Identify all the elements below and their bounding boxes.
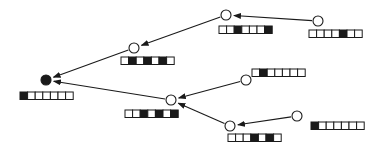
bit-cell bbox=[309, 30, 317, 38]
bit-cell bbox=[282, 69, 290, 77]
bit-cell bbox=[151, 57, 159, 65]
node-d bbox=[166, 95, 176, 105]
bit-cell bbox=[167, 57, 175, 65]
node-g bbox=[292, 111, 302, 121]
edge-g-to-f bbox=[238, 117, 291, 125]
bitstring-d bbox=[125, 110, 178, 118]
bit-cell bbox=[43, 92, 51, 100]
bit-cell bbox=[144, 57, 152, 65]
node-a bbox=[129, 43, 139, 53]
bitstring-e bbox=[252, 69, 305, 77]
bit-cell bbox=[274, 134, 282, 142]
bit-cell bbox=[260, 69, 268, 77]
bit-cell bbox=[50, 92, 58, 100]
bit-cell bbox=[136, 57, 144, 65]
bit-cell bbox=[357, 122, 365, 130]
node-e bbox=[241, 75, 251, 85]
bit-cell bbox=[298, 69, 306, 77]
bit-cell bbox=[121, 57, 129, 65]
bit-cell bbox=[148, 110, 156, 118]
node-b bbox=[221, 10, 231, 20]
bitstring-root bbox=[20, 92, 73, 100]
bit-cell bbox=[349, 122, 357, 130]
bit-cell bbox=[341, 122, 349, 130]
bit-cell bbox=[155, 110, 163, 118]
bit-cell bbox=[355, 30, 363, 38]
bit-cell bbox=[219, 26, 227, 34]
bit-cell bbox=[326, 122, 334, 130]
bit-cell bbox=[334, 122, 342, 130]
bit-cell bbox=[324, 30, 332, 38]
bit-cell bbox=[311, 122, 319, 130]
root-node bbox=[41, 75, 51, 85]
bit-cell bbox=[243, 134, 251, 142]
bit-cell bbox=[317, 30, 325, 38]
bit-cell bbox=[251, 134, 259, 142]
bit-cell bbox=[227, 26, 235, 34]
bitstring-a bbox=[121, 57, 174, 65]
bit-cell bbox=[339, 30, 347, 38]
bit-cell bbox=[252, 69, 260, 77]
bitstring-c bbox=[309, 30, 362, 38]
bit-cell bbox=[332, 30, 340, 38]
bit-cell bbox=[66, 92, 74, 100]
bit-cell bbox=[58, 92, 66, 100]
bitstring-f bbox=[228, 134, 281, 142]
bit-cell bbox=[258, 134, 266, 142]
bit-cell bbox=[163, 110, 171, 118]
edge-e-to-d bbox=[179, 82, 240, 98]
bit-cell bbox=[133, 110, 141, 118]
bit-cell bbox=[171, 110, 179, 118]
bit-cell bbox=[257, 26, 265, 34]
edge-a-to-root bbox=[54, 50, 129, 77]
node-f bbox=[225, 121, 235, 131]
bit-cell bbox=[275, 69, 283, 77]
bit-cell bbox=[228, 134, 236, 142]
bit-cell bbox=[265, 26, 273, 34]
bit-cell bbox=[347, 30, 355, 38]
bit-cell bbox=[242, 26, 250, 34]
bit-cell bbox=[140, 110, 148, 118]
bit-cell bbox=[236, 134, 244, 142]
edge-b-to-a bbox=[142, 17, 221, 45]
edge-c-to-b bbox=[234, 16, 312, 21]
bit-cell bbox=[319, 122, 327, 130]
bit-cell bbox=[266, 134, 274, 142]
bit-cell bbox=[129, 57, 137, 65]
edge-f-to-d bbox=[178, 103, 224, 123]
tree-diagram bbox=[0, 0, 382, 152]
bitstring-b bbox=[219, 26, 272, 34]
bit-cell bbox=[234, 26, 242, 34]
bit-cell bbox=[267, 69, 275, 77]
bit-cell bbox=[20, 92, 28, 100]
node-c bbox=[313, 16, 323, 26]
bitstring-g bbox=[311, 122, 364, 130]
bit-cell bbox=[28, 92, 36, 100]
bit-cell bbox=[290, 69, 298, 77]
bit-cell bbox=[125, 110, 133, 118]
bit-cell bbox=[159, 57, 167, 65]
bit-cell bbox=[35, 92, 43, 100]
bit-cell bbox=[249, 26, 257, 34]
